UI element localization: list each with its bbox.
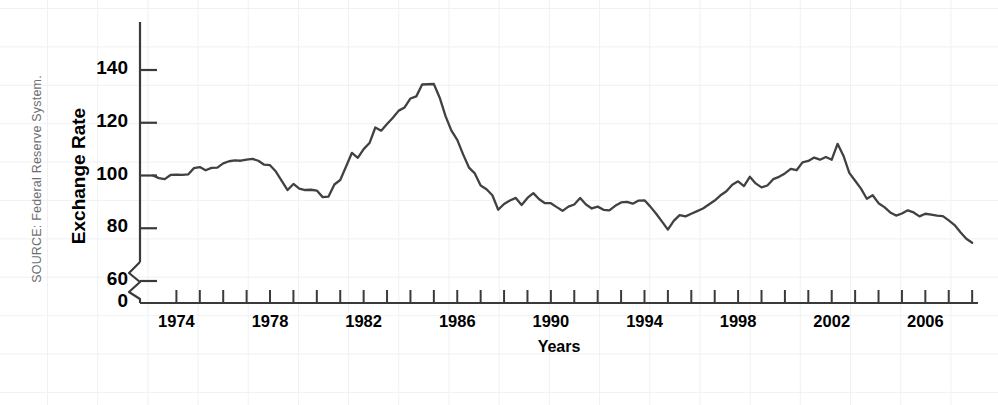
x-axis-tick-label: 2002 [797, 312, 867, 331]
x-axis-tick-label: 2006 [890, 312, 960, 331]
y-axis-tick-label: 100 [58, 163, 128, 185]
line-chart-plot-area: Exchange Rate Years 06080100120140 19741… [0, 0, 998, 405]
y-axis-tick-label: 140 [58, 57, 128, 79]
y-axis-tick-label: 120 [58, 110, 128, 132]
y-axis-tick-label: 60 [58, 268, 128, 290]
x-axis-tick-label: 1978 [235, 312, 305, 331]
y-axis-tick-label: 80 [58, 215, 128, 237]
x-axis-tick-label: 1998 [703, 312, 773, 331]
x-axis-tick-label: 1990 [516, 312, 586, 331]
ticks-group [140, 70, 972, 303]
x-axis-tick-label: 1986 [422, 312, 492, 331]
y-axis-tick-label: 0 [58, 290, 128, 312]
figure-root: SOURCE: Federal Reserve System. Exchange… [0, 0, 998, 405]
data-series-line [153, 84, 972, 243]
x-axis-tick-label: 1994 [609, 312, 679, 331]
x-axis-title: Years [489, 338, 629, 356]
x-axis-tick-label: 1982 [329, 312, 399, 331]
x-axis-tick-label: 1974 [141, 312, 211, 331]
y-axis-break-zigzag [129, 262, 140, 303]
axes-group [129, 22, 978, 303]
